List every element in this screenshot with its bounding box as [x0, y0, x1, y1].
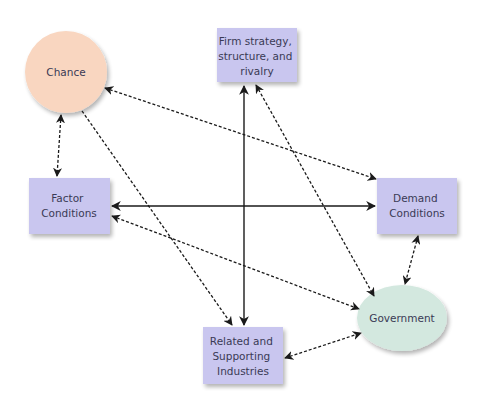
related-label-line3: Industries: [217, 365, 269, 377]
edge-chance-demand: [105, 88, 376, 179]
factor-label-line2: Conditions: [41, 207, 97, 219]
svg-text:Government: Government: [369, 312, 434, 324]
edge-related-government: [285, 333, 361, 358]
node-factor-conditions: Factor Conditions: [29, 178, 110, 234]
related-label-line1: Related and: [210, 335, 273, 347]
demand-label-line2: Conditions: [389, 207, 445, 219]
node-chance: Chance: [25, 31, 107, 113]
edge-chance-factor: [57, 115, 61, 176]
edge-demand-government: [405, 236, 418, 284]
government-label: Government: [369, 312, 434, 324]
chance-label: Chance: [46, 66, 85, 78]
porter-diamond-diagram: Chance Firm strategy, structure, and riv…: [0, 0, 488, 409]
node-government: Government: [357, 285, 447, 351]
svg-text:Related and Supporting: Related and Supporting Industries: [210, 335, 276, 377]
related-label-line2: Supporting: [212, 350, 270, 362]
node-firm-strategy: Firm strategy, structure, and rivalry: [217, 28, 297, 82]
demand-label-line1: Demand: [393, 192, 438, 204]
svg-text:Chance: Chance: [46, 66, 85, 78]
firm-label-line1: Firm strategy,: [219, 35, 292, 47]
factor-label-line1: Factor: [51, 192, 84, 204]
firm-label-line2: structure, and: [218, 50, 292, 62]
edge-factor-government: [112, 216, 359, 309]
node-demand-conditions: Demand Conditions: [377, 178, 457, 234]
edge-firm-government: [256, 85, 374, 296]
node-related-supporting: Related and Supporting Industries: [203, 327, 283, 384]
firm-label-line3: rivalry: [240, 65, 273, 77]
